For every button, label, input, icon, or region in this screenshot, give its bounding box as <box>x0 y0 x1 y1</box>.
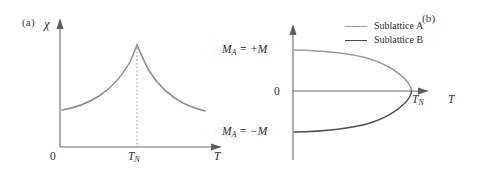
legend-swatch-sublattice-a <box>345 26 367 27</box>
panel-b-lower-label-sub: A <box>232 130 237 139</box>
panel-b-label: (b) <box>422 12 435 24</box>
panel-b-upper-magnetization-label: MA = +M <box>222 43 267 57</box>
legend-swatch-sublattice-b <box>345 40 367 41</box>
figure-container: (a) χ 0 TN T (b) MA = +M 0 <box>0 0 477 172</box>
panel-b-lower-magnetization-label: MA = −M <box>222 125 267 139</box>
panel-b-tn-label: TN <box>412 93 424 107</box>
panel-b-upper-label-sub: A <box>232 48 237 57</box>
panel-b-tn-label-sub: N <box>418 98 423 107</box>
panel-b-lower-label-main: M <box>222 125 232 137</box>
panel-b-sublattice-magnetization: (b) MA = +M 0 MA = −M TN T <box>200 0 477 172</box>
panel-b-origin-label: 0 <box>274 85 280 97</box>
panel-b-x-axis-label: T <box>448 93 454 105</box>
legend-item-sublattice-a: Sublattice A <box>345 19 423 33</box>
legend-label-sublattice-a: Sublattice A <box>374 19 423 33</box>
panel-b-sublattice-b-curve <box>294 91 412 132</box>
panel-b-plot <box>200 0 477 172</box>
panel-b-lower-label-value: = −M <box>239 125 267 137</box>
panel-b-y-axis-arrow <box>289 24 296 35</box>
panel-b-upper-label-value: = +M <box>239 43 267 55</box>
panel-b-sublattice-a-curve <box>294 50 412 91</box>
panel-a-origin-label: 0 <box>50 150 56 162</box>
panel-b-upper-label-main: M <box>222 43 232 55</box>
panel-a-y-axis-arrow <box>56 18 63 29</box>
panel-a-label: (a) <box>22 16 35 28</box>
panel-a-tn-label: TN <box>128 150 140 164</box>
panel-a-tn-label-sub: N <box>134 155 139 164</box>
panel-a-susceptibility-curve <box>62 45 205 111</box>
legend-item-sublattice-b: Sublattice B <box>345 33 423 47</box>
legend: Sublattice A Sublattice B <box>345 19 423 47</box>
legend-label-sublattice-b: Sublattice B <box>374 33 423 47</box>
panel-a-y-axis-label: χ <box>44 16 50 32</box>
